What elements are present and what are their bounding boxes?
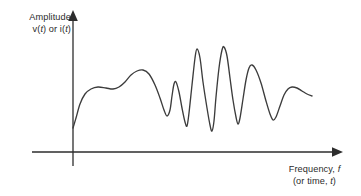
x-axis-label-variable-f: f [338,164,341,174]
x-axis-arrow-icon [332,147,343,157]
y-axis-label-line-2: v(t) or i(t) [0,24,71,36]
x-axis-label-line-1: Frequency, f [268,164,361,176]
x-axis-label-alt-suffix: ) [333,176,336,186]
y-axis-label-middle: ) or i( [43,24,65,34]
x-axis-label-line-2: (or time, t) [268,176,361,188]
y-axis-label-suffix: ) [68,24,71,34]
x-axis-label-alt-prefix: (or time, [293,176,330,186]
y-axis-label: Amplitude v(t) or i(t) [0,12,71,35]
x-axis-label: Frequency, f (or time, t) [268,164,361,187]
signal-waveform-curve [73,47,312,132]
x-axis-label-text: Frequency, [289,164,338,174]
waveform-figure: Amplitude v(t) or i(t) Frequency, f (or … [0,0,361,196]
y-axis-label-line-1: Amplitude [0,12,71,24]
